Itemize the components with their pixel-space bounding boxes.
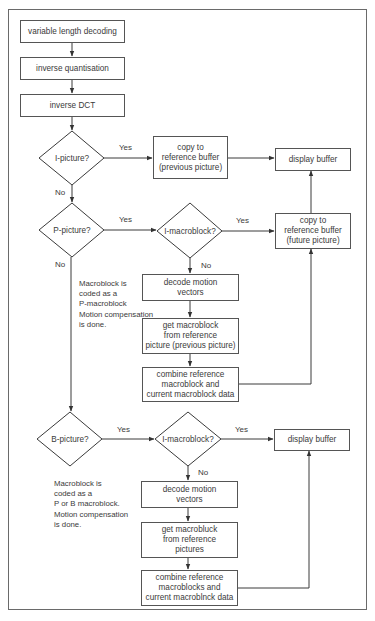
edge-label-imb2-yes: Yes — [235, 425, 248, 434]
decision-i-macroblock-1: I-macroblock? — [164, 227, 215, 236]
node-combine-reference-1: combine reference macroblock and current… — [142, 367, 239, 402]
decision-p-picture: P-picture? — [53, 226, 90, 235]
edge-label-i-no: No — [55, 188, 65, 197]
edge-label-b-yes: Yes — [117, 425, 130, 434]
edge-label-imb2-no: No — [198, 468, 208, 477]
node-decode-motion-vectors-2: decode motion vectors — [141, 481, 238, 508]
edge-label-i-yes: Yes — [119, 143, 132, 152]
node-copy-reference-previous: copy to reference buffer (previous pictu… — [153, 136, 228, 179]
node-get-macroblock-1: get macroblock from reference picture (p… — [142, 318, 239, 354]
arrow-combine1-copyfuture — [238, 249, 311, 384]
node-display-buffer-2: display buffer — [274, 429, 350, 451]
edge-label-imb1-yes: Yes — [236, 216, 249, 225]
node-combine-reference-2: combine reference macroblocks and curren… — [141, 570, 238, 606]
node-variable-length-decoding: variable length decoding — [20, 20, 125, 43]
node-inverse-quantisation: inverse quantisation — [20, 57, 125, 80]
node-inverse-dct: inverse DCT — [20, 94, 125, 117]
note-p-macroblock: Macroblock is coded as a P-macroblock Mo… — [79, 279, 153, 330]
node-display-buffer-1: display buffer — [275, 148, 351, 171]
edge-label-p-no: No — [55, 260, 65, 269]
edge-label-p-yes: Yes — [119, 215, 132, 224]
node-copy-reference-future: copy to reference buffer (future picture… — [275, 213, 351, 249]
edge-label-imb1-no: No — [201, 261, 211, 270]
decision-i-macroblock-2: I-macroblock? — [162, 435, 213, 444]
arrow-combine2-display2 — [237, 451, 309, 588]
decision-i-picture: I-picture? — [55, 154, 89, 163]
note-p-or-b-macroblock: Macroblock is coded as a P or B macroblo… — [54, 479, 128, 530]
node-decode-motion-vectors-1: decode motion vectors — [142, 274, 239, 301]
node-get-macroblock-2: get macrobluck from reference pictures — [141, 522, 238, 558]
decision-b-picture: B-picture? — [51, 435, 88, 444]
